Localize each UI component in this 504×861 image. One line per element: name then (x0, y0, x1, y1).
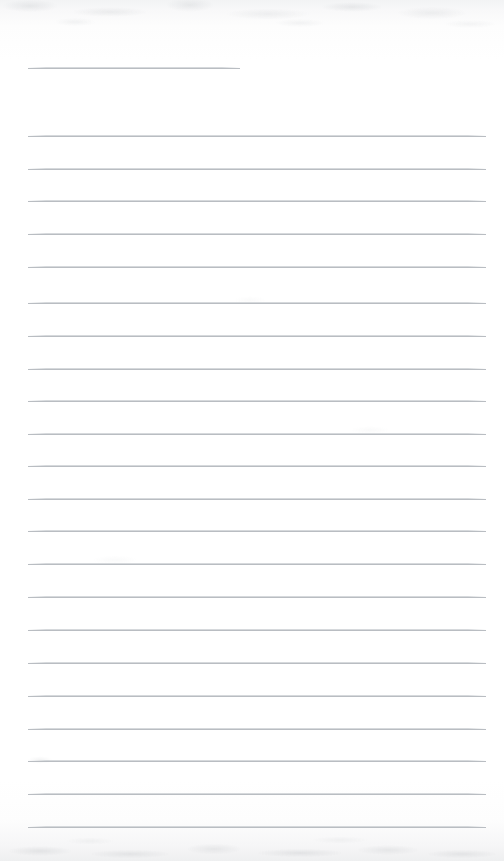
rule-end-fade (222, 67, 240, 69)
body-rule (28, 267, 486, 268)
body-rule (28, 630, 486, 631)
rule-end-fade (468, 135, 486, 137)
body-rule (28, 303, 486, 304)
rule-end-fade (468, 302, 486, 304)
rule-end-fade (468, 465, 486, 467)
rule-end-fade (28, 563, 46, 565)
body-rule (28, 794, 486, 795)
rule-end-fade (28, 695, 46, 697)
rule-end-fade (468, 433, 486, 435)
body-rule (28, 434, 486, 435)
rule-end-fade (28, 368, 46, 370)
rule-end-fade (28, 629, 46, 631)
rule-end-fade (28, 760, 46, 762)
body-rule (28, 531, 486, 532)
body-rule (28, 369, 486, 370)
rule-end-fade (468, 530, 486, 532)
rule-end-fade (468, 368, 486, 370)
rule-end-fade (468, 793, 486, 795)
body-rule (28, 696, 486, 697)
rule-end-fade (28, 728, 46, 730)
rule-end-fade (468, 662, 486, 664)
rule-end-fade (468, 266, 486, 268)
body-rule (28, 234, 486, 235)
rule-end-fade (28, 200, 46, 202)
body-rule (28, 564, 486, 565)
body-rule (28, 336, 486, 337)
rule-end-fade (468, 233, 486, 235)
rule-end-fade (28, 400, 46, 402)
rule-end-fade (468, 563, 486, 565)
rule-end-fade (28, 335, 46, 337)
body-rule (28, 761, 486, 762)
body-rule (28, 201, 486, 202)
rule-end-fade (468, 498, 486, 500)
rule-end-fade (468, 596, 486, 598)
rule-end-fade (28, 662, 46, 664)
body-rule (28, 499, 486, 500)
body-rule (28, 597, 486, 598)
rule-end-fade (468, 168, 486, 170)
rule-end-fade (468, 400, 486, 402)
rule-end-fade (28, 433, 46, 435)
rule-end-fade (468, 629, 486, 631)
rule-end-fade (28, 465, 46, 467)
scan-smudge-layer (0, 0, 504, 861)
rule-end-fade (28, 135, 46, 137)
rule-end-fade (468, 335, 486, 337)
rule-end-fade (28, 302, 46, 304)
rule-end-fade (468, 200, 486, 202)
rule-end-fade (28, 530, 46, 532)
rule-end-fade (468, 760, 486, 762)
scanned-page (0, 0, 504, 861)
rule-end-fade (28, 67, 46, 69)
rule-end-fade (28, 498, 46, 500)
title-rule (28, 68, 240, 69)
body-rule (28, 169, 486, 170)
body-rule (28, 729, 486, 730)
scan-noise-bottom-band (0, 827, 504, 861)
rule-end-fade (28, 793, 46, 795)
rule-end-fade (468, 695, 486, 697)
body-rule (28, 663, 486, 664)
rule-end-fade (28, 266, 46, 268)
rule-end-fade (28, 233, 46, 235)
body-rule (28, 136, 486, 137)
rule-end-fade (468, 728, 486, 730)
body-rule (28, 466, 486, 467)
body-rule (28, 401, 486, 402)
rule-end-fade (28, 596, 46, 598)
rule-end-fade (28, 168, 46, 170)
